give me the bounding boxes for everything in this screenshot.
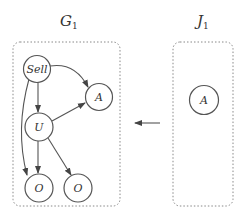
node-o-right: O — [64, 174, 92, 202]
node-j-a: A — [190, 86, 219, 115]
edge-sell-a — [50, 65, 88, 87]
left-graph-title: G1 — [60, 12, 78, 31]
svg-text:O: O — [73, 182, 82, 195]
node-u: U — [25, 113, 53, 141]
node-sell: Sell — [24, 56, 51, 83]
svg-text:A: A — [199, 94, 208, 107]
edge-u-a — [52, 103, 85, 121]
svg-text:U: U — [34, 121, 44, 134]
right-graph-title: J1 — [194, 12, 209, 31]
diagram-canvas: G1 J1 Sell A U O O A — [0, 0, 251, 218]
svg-text:A: A — [94, 91, 103, 104]
right-graph-box — [173, 42, 233, 206]
svg-text:O: O — [34, 182, 43, 195]
node-a: A — [86, 84, 113, 111]
node-o-left: O — [25, 174, 53, 202]
edge-u-o2 — [48, 138, 71, 175]
svg-text:Sell: Sell — [26, 63, 48, 76]
